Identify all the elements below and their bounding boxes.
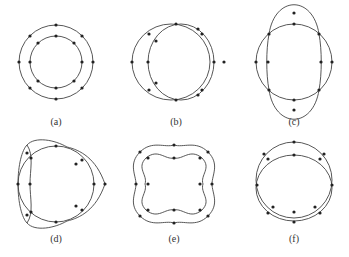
mode-shapes-diagram [0,0,349,257]
panel-b-label: (b) [170,116,182,127]
panel-e-label: (e) [168,233,179,244]
panel-c-label: (c) [288,116,299,127]
panel-a-label: (a) [50,116,61,127]
panel-f-label: (f) [289,233,299,244]
panel-c-nodes [254,11,333,111]
panel-d-label: (d) [50,233,62,244]
panel-e-nodes [134,143,213,224]
panel-a-nodes [17,23,94,100]
